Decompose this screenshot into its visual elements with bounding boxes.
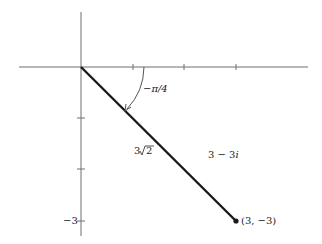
complex-plane-diagram: −π/4 3 2 3 − 3i (3, −3) −3 <box>0 0 322 244</box>
angle-arc <box>127 67 144 109</box>
angle-label: −π/4 <box>143 83 168 94</box>
svg-text:3: 3 <box>134 145 140 156</box>
point-label: (3, −3) <box>241 215 276 226</box>
complex-number-label: 3 − 3i <box>208 149 239 160</box>
svg-text:2: 2 <box>146 145 152 156</box>
modulus-label: 3 2 <box>134 145 154 156</box>
point-marker <box>233 218 238 223</box>
y-tick-label: −3 <box>63 215 78 226</box>
